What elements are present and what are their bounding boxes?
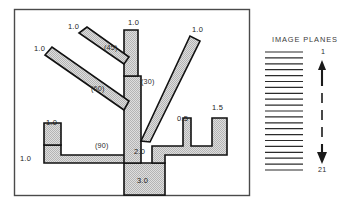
- figure-svg: [0, 0, 346, 210]
- label-diameter-trunk: 3.0: [137, 177, 148, 185]
- label-diameter-branch-left: 1.0: [34, 45, 45, 53]
- label-diameter-branch-upper-right: 1.0: [192, 26, 203, 34]
- label-angle-30: (30): [141, 78, 155, 85]
- label-diameter-branch-lower: 1.0: [20, 155, 31, 163]
- image-plane-stack: [265, 52, 303, 170]
- label-diameter-main-stem: 2.0: [134, 148, 145, 156]
- label-diameter-branch-small: 0.5: [177, 115, 188, 123]
- label-angle-45: (45): [104, 44, 118, 51]
- label-diameter-branch-lower-left: 1.0: [46, 119, 57, 127]
- plane-index-top-label: 1: [321, 48, 325, 55]
- label-angle-90: (90): [95, 142, 109, 149]
- label-diameter-branch-top: 1.0: [128, 19, 139, 27]
- plane-index-bottom-label: 21: [318, 166, 326, 173]
- label-diameter-branch-upper-left: 1.0: [68, 23, 79, 31]
- label-diameter-branch-right: 1.5: [212, 104, 223, 112]
- label-angle-60: (60): [91, 85, 105, 92]
- tree-branch-top: [124, 30, 138, 76]
- figure-container: 3.0 2.0 1.0 1.0 1.0 1.0 1.0 1.0 0.5 1.5 …: [0, 0, 346, 210]
- image-planes-title: IMAGE PLANES: [272, 36, 338, 43]
- arrow-down-icon: [317, 152, 327, 164]
- plane-index-axis: [317, 60, 327, 164]
- arrow-up-icon: [318, 60, 326, 70]
